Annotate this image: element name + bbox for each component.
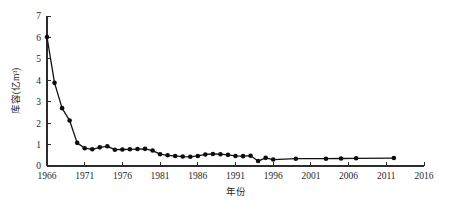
y-axis-tick-label: 3 bbox=[36, 97, 41, 107]
data-point bbox=[113, 147, 118, 152]
data-point bbox=[339, 156, 344, 161]
data-point bbox=[271, 157, 276, 162]
data-point bbox=[226, 153, 231, 158]
data-point bbox=[196, 154, 201, 159]
data-point bbox=[45, 35, 50, 40]
x-axis-tick-label: 2006 bbox=[339, 171, 358, 181]
reservoir-capacity-line-chart: 01234567 1966197119761981198619911996200… bbox=[0, 0, 453, 215]
x-axis-title: 年份 bbox=[226, 186, 246, 197]
data-point bbox=[75, 141, 80, 146]
data-point bbox=[82, 146, 87, 151]
data-point bbox=[97, 145, 102, 150]
data-point bbox=[211, 152, 216, 157]
data-point bbox=[256, 159, 261, 164]
x-axis-tick-label: 1991 bbox=[226, 171, 245, 181]
y-axis-title: 库容(亿m³) bbox=[10, 68, 22, 115]
x-axis-tick-label: 1986 bbox=[188, 171, 207, 181]
x-axis: 1966197119761981198619911996200120062011… bbox=[38, 162, 434, 181]
data-point bbox=[263, 156, 268, 161]
data-point bbox=[105, 144, 110, 149]
y-axis-tick-label: 0 bbox=[36, 161, 41, 171]
y-axis-tick-label: 5 bbox=[36, 54, 41, 64]
y-axis: 01234567 bbox=[36, 11, 51, 171]
x-axis-tick-label: 1976 bbox=[113, 171, 132, 181]
x-axis-tick-label: 2011 bbox=[377, 171, 396, 181]
data-point bbox=[294, 156, 299, 161]
y-axis-tick-label: 4 bbox=[36, 76, 41, 86]
data-point bbox=[180, 154, 185, 159]
data-point bbox=[120, 147, 125, 152]
data-point bbox=[143, 147, 148, 152]
data-point bbox=[392, 156, 397, 161]
data-point bbox=[150, 148, 155, 153]
chart-container: 01234567 1966197119761981198619911996200… bbox=[0, 0, 453, 215]
y-axis-tick-label: 7 bbox=[36, 11, 41, 21]
data-point bbox=[354, 156, 359, 161]
data-point bbox=[52, 81, 57, 86]
y-axis-tick-label: 6 bbox=[36, 33, 41, 43]
y-axis-tick-label: 2 bbox=[36, 119, 41, 129]
x-axis-tick-label: 1981 bbox=[151, 171, 170, 181]
data-series bbox=[45, 35, 396, 164]
data-point bbox=[188, 154, 193, 159]
data-point bbox=[233, 154, 238, 159]
x-axis-tick-label: 2016 bbox=[415, 171, 434, 181]
data-point bbox=[90, 147, 95, 152]
data-point bbox=[128, 147, 133, 152]
data-point bbox=[218, 152, 223, 157]
x-axis-tick-label: 1996 bbox=[264, 171, 283, 181]
series-line-库容 bbox=[47, 37, 394, 161]
x-axis-tick-label: 1971 bbox=[75, 171, 94, 181]
data-point bbox=[173, 154, 178, 159]
y-axis-tick-label: 1 bbox=[36, 140, 41, 150]
data-point bbox=[135, 147, 140, 152]
x-axis-tick-label: 1966 bbox=[38, 171, 57, 181]
data-point bbox=[158, 152, 163, 157]
x-axis-tick-label: 2001 bbox=[301, 171, 320, 181]
data-point bbox=[324, 156, 329, 161]
data-point bbox=[241, 154, 246, 159]
data-point bbox=[203, 152, 208, 157]
data-point bbox=[60, 106, 65, 111]
data-point bbox=[248, 153, 253, 158]
data-point bbox=[67, 118, 72, 123]
data-point bbox=[165, 153, 170, 158]
